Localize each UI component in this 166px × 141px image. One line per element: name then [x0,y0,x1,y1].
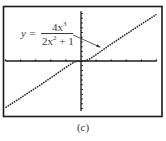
formula-denominator: 2x2 + 1 [42,34,74,47]
formula-numerator: 4x3 [52,20,67,33]
graph-figure [0,0,166,141]
figure-caption: (c) [0,121,166,133]
formula-prefix: y = [21,27,36,39]
